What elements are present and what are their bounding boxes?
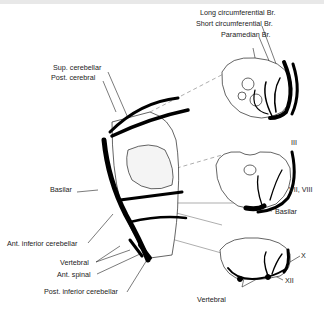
label-paramedian-branch: Paramedian Br. (221, 31, 271, 38)
label-basilar-left: Basilar (50, 186, 72, 193)
label-post-cerebral: Post. cerebral (51, 74, 95, 81)
label-ant-inferior-cerebellar: Ant. inferior cerebellar (7, 240, 77, 247)
brainstem-artery-illustration (0, 0, 324, 310)
label-vertebral-right: Vertebral (197, 296, 226, 303)
label-short-circumferential-branch: Short circumferential Br. (196, 20, 273, 27)
label-basilar-right: Basilar (275, 208, 297, 215)
label-ant-spinal: Ant. spinal (57, 271, 91, 278)
label-vertebral-left: Vertebral (60, 259, 89, 266)
label-cranial-nerve-x: X (301, 252, 306, 259)
label-cranial-nerve-iii: III (291, 139, 297, 146)
label-post-inferior-cerebellar: Post. inferior cerebellar (44, 288, 118, 295)
label-cranial-nerve-xii: XII (285, 277, 294, 284)
label-sup-cerebellar: Sup. cerebellar (53, 64, 101, 71)
label-cranial-nerves-vii-viii: VII, VIII (289, 186, 313, 193)
label-long-circumferential-branch: Long circumferential Br. (200, 9, 276, 16)
